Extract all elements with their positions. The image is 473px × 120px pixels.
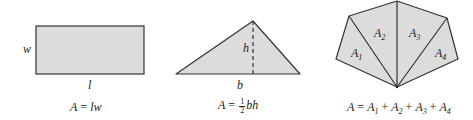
polygon-area-formula: A = A1 + A2 + A3 + A4 [347, 101, 451, 116]
term-sub: 1 [374, 107, 378, 116]
fraction-denominator: 2 [239, 107, 245, 115]
plus-operator: + [430, 100, 437, 114]
polygon-region-label-1: A1 [351, 47, 362, 62]
polygon-region-label-4: A4 [435, 47, 446, 62]
term-2: A2 [391, 100, 402, 114]
rectangle-length-label: l [88, 79, 91, 91]
triangle-height-label: h [243, 42, 249, 54]
polygon-region-label-2: A2 [374, 27, 385, 42]
triangle-shape [176, 21, 300, 74]
polygon-common-vertex [396, 86, 398, 88]
term-main: A [391, 100, 398, 114]
label-sub: 3 [416, 33, 420, 42]
plus-operator: + [381, 100, 388, 114]
one-half-fraction: 1 2 [239, 98, 245, 115]
plus-operator: + [406, 100, 413, 114]
term-sub: 2 [399, 107, 403, 116]
rectangle-width-label: w [23, 43, 31, 55]
rectangle-area-formula: A = lw [70, 101, 101, 113]
formula-rhs: lw [90, 100, 101, 114]
formula-rhs: bh [246, 98, 258, 112]
polygon-region-label-3: A3 [409, 27, 420, 42]
triangle-area-formula: A = 1 2 bh [218, 98, 258, 115]
term-1: A1 [367, 100, 378, 114]
formula-equals: = [80, 100, 87, 114]
triangle-base-label: b [237, 79, 243, 91]
formula-lhs: A [70, 100, 77, 114]
rectangle-shape [36, 26, 144, 74]
formula-equals: = [228, 98, 235, 112]
formula-equals: = [357, 100, 364, 114]
term-main: A [415, 100, 422, 114]
formula-lhs: A [218, 98, 225, 112]
term-sub: 4 [447, 107, 451, 116]
label-sub: 4 [442, 53, 446, 62]
term-4: A4 [440, 100, 451, 114]
label-sub: 1 [358, 53, 362, 62]
term-main: A [440, 100, 447, 114]
term-3: A3 [415, 100, 426, 114]
label-sub: 2 [381, 33, 385, 42]
term-sub: 3 [423, 107, 427, 116]
formula-lhs: A [347, 100, 354, 114]
